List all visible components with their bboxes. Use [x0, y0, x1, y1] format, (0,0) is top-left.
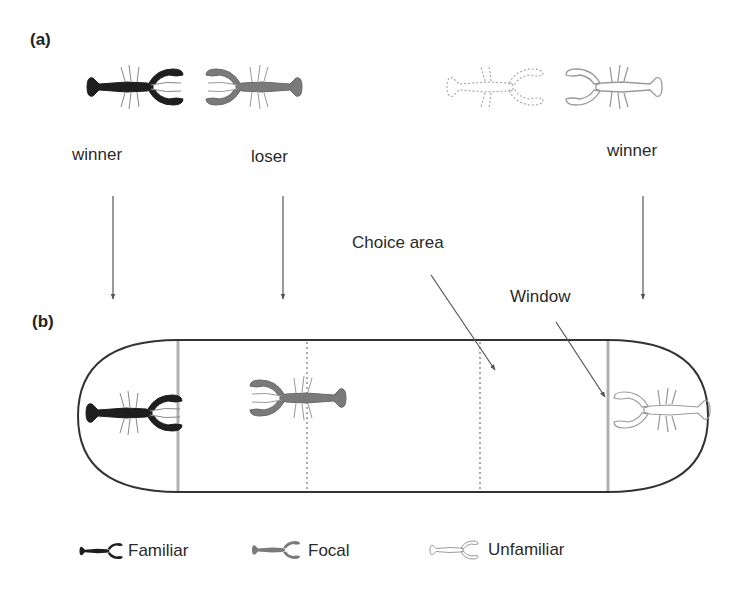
tank-familiar-crayfish-icon — [86, 391, 182, 435]
legend-familiar-label: Familiar — [128, 541, 188, 561]
diagram-canvas — [0, 0, 733, 594]
legend-focal-label: Focal — [308, 541, 350, 561]
choice-area-label: Choice area — [352, 233, 444, 253]
legend-unfamiliar-label: Unfamiliar — [488, 540, 565, 560]
tank-focal-crayfish-icon — [250, 376, 346, 420]
window-pointer — [556, 322, 605, 397]
legend-unfamiliar-icon — [430, 541, 478, 559]
unfamiliar-crayfish-icon — [566, 65, 662, 109]
legend-focal-icon — [252, 541, 300, 559]
tank-unfamiliar-crayfish-icon — [614, 388, 710, 432]
panel-b-label: (b) — [32, 312, 54, 332]
dotted-crayfish-icon — [447, 65, 543, 109]
focal-crayfish-icon — [206, 65, 302, 109]
label-loser-focal: loser — [251, 147, 288, 167]
label-winner-unfamiliar: winner — [607, 141, 657, 161]
window-label: Window — [510, 287, 570, 307]
panel-a-label: (a) — [30, 30, 51, 50]
legend-familiar-icon — [80, 543, 123, 559]
choice-area-pointer — [431, 275, 495, 370]
label-winner-familiar: winner — [72, 145, 122, 165]
familiar-crayfish-icon — [87, 65, 183, 109]
tank-outline — [78, 340, 708, 492]
